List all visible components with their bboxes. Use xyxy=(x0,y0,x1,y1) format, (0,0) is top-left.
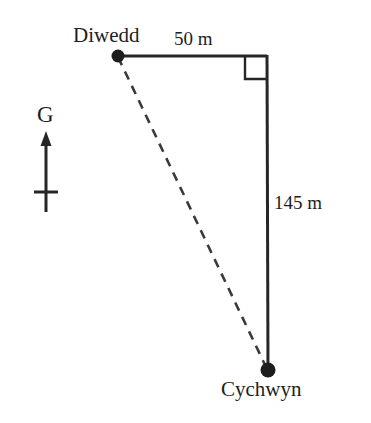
segment-right-leg xyxy=(267,55,268,371)
vertex-label-cychwyn: Cychwyn xyxy=(221,379,302,400)
side-length-label-right: 145 m xyxy=(274,193,322,212)
vertex-dot-diwedd xyxy=(112,50,125,63)
vertex-label-diwedd: Diwedd xyxy=(73,25,140,46)
side-length-label-top: 50 m xyxy=(174,29,213,48)
right-angle-square xyxy=(245,57,266,79)
vertex-dot-cychwyn xyxy=(261,363,276,378)
compass-label: G xyxy=(37,103,54,126)
segment-hypotenuse-dashed xyxy=(118,57,267,369)
diagram-canvas: Diwedd Cychwyn 50 m 145 m G xyxy=(0,0,371,423)
compass-arrow-head xyxy=(41,131,52,146)
